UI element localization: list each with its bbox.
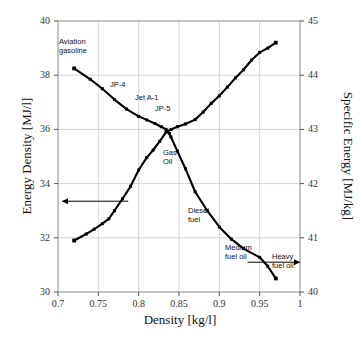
x-tick-label: 0.9	[204, 298, 234, 309]
series-marker	[230, 238, 233, 241]
axis-pointer-arrows	[62, 201, 300, 262]
series-marker	[274, 277, 278, 281]
y-tick-label-left: 32	[26, 232, 50, 243]
label-diesel-fuel: Diesel fuel	[188, 206, 209, 224]
chart-canvas	[0, 0, 360, 340]
series-marker	[101, 222, 104, 225]
series-marker	[145, 156, 148, 159]
series-marker	[226, 86, 229, 89]
series-line-2	[74, 43, 276, 241]
series-marker	[158, 140, 161, 143]
x-tick-label: 0.95	[245, 298, 275, 309]
x-tick-label: 0.7	[43, 298, 73, 309]
series-marker	[152, 149, 155, 152]
y-tick-label-left: 30	[26, 286, 50, 297]
series-marker	[218, 94, 221, 97]
series-marker	[169, 128, 172, 131]
series-marker	[129, 185, 132, 188]
series-marker	[101, 87, 104, 90]
y-axis-right-title: Specific Energy [MJ/kg]	[340, 66, 356, 246]
label-aviation-gasoline: Aviation gasoline	[59, 37, 87, 55]
series-marker	[165, 131, 168, 134]
series-marker	[72, 67, 76, 71]
series-marker	[210, 102, 213, 105]
y-tick-label-right: 44	[308, 69, 332, 80]
label-jet-a-1: Jet A-1	[135, 93, 158, 102]
series-marker	[153, 122, 156, 125]
y-tick-label-right: 45	[308, 15, 332, 26]
series-marker	[194, 190, 197, 193]
series-marker	[250, 59, 253, 62]
series-marker	[234, 76, 237, 79]
series-marker	[176, 125, 179, 128]
series-marker	[184, 167, 187, 170]
series-marker	[274, 41, 278, 45]
x-axis-title: Density [kg/l]	[60, 312, 300, 328]
x-tick-label: 0.75	[83, 298, 113, 309]
series-marker	[121, 197, 124, 200]
y-tick-label-left: 34	[26, 178, 50, 189]
series-marker	[218, 225, 221, 228]
y-axis-left-title: Energy Density [MJ/l]	[19, 66, 35, 246]
series-marker	[202, 111, 205, 114]
series-marker	[194, 118, 197, 121]
label-heavy-fuel-oil: Heavy fuel oil	[272, 252, 294, 270]
y-tick-label-left: 36	[26, 123, 50, 134]
series-marker	[107, 217, 110, 220]
series-marker	[137, 115, 140, 118]
series-marker	[145, 118, 148, 121]
chart-figure: Energy Density [MJ/l] Specific Energy [M…	[0, 0, 360, 340]
series-marker	[266, 47, 269, 50]
series-marker	[169, 135, 172, 138]
y-tick-label-right: 40	[308, 286, 332, 297]
series-marker	[137, 169, 140, 172]
series-marker	[113, 209, 116, 212]
series-marker	[242, 68, 245, 71]
y-tick-label-left: 38	[26, 69, 50, 80]
label-gas-oil: Gas Oil	[163, 148, 177, 166]
series-marker	[168, 132, 171, 135]
series-marker	[258, 256, 261, 259]
y-tick-label-left: 40	[26, 15, 50, 26]
label-jp-4: JP-4	[110, 80, 125, 89]
x-tick-label: 0.8	[124, 298, 154, 309]
series-marker	[266, 265, 269, 268]
series-marker	[184, 122, 187, 125]
series-marker	[125, 108, 128, 111]
series-marker	[113, 98, 116, 101]
label-medium-fuel-oil: Medium fuel oil	[225, 243, 252, 261]
x-tick-label: 0.85	[164, 298, 194, 309]
x-tick-label: 1	[285, 298, 315, 309]
y-tick-label-right: 41	[308, 232, 332, 243]
y-tick-label-right: 43	[308, 123, 332, 134]
series-marker	[89, 78, 92, 81]
series-marker	[258, 51, 261, 54]
y-tick-label-right: 42	[308, 178, 332, 189]
label-jp-5: JP-5	[155, 104, 170, 113]
series-marker	[93, 228, 96, 231]
series-marker	[72, 239, 76, 243]
series-marker	[85, 233, 88, 236]
series-marker	[160, 125, 163, 128]
